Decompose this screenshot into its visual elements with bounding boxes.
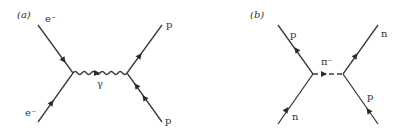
arrow-icon bbox=[321, 71, 327, 77]
arrow-icon bbox=[94, 70, 100, 76]
label-p-top: p bbox=[166, 19, 172, 30]
neutron-line-top-right bbox=[343, 25, 378, 74]
label-e-bottom: e⁻ bbox=[25, 107, 36, 118]
label-p-bottom: p bbox=[165, 115, 171, 126]
label-p-bottom-right: p bbox=[367, 91, 373, 102]
electron-line-top-left bbox=[38, 25, 73, 73]
label-n-bottom-left: n bbox=[292, 111, 299, 122]
feynman-diagrams-figure: (a) e⁻ e⁻ γ p p (b) p n bbox=[0, 0, 402, 136]
electron-line-bottom-left bbox=[38, 73, 73, 122]
label-e-top: e⁻ bbox=[45, 13, 56, 24]
panel-a-label: (a) bbox=[17, 9, 31, 20]
label-n-top-right: n bbox=[381, 28, 388, 39]
proton-line-top-right bbox=[127, 25, 162, 73]
panel-b-label: (b) bbox=[250, 9, 264, 20]
label-p-top-left: p bbox=[290, 29, 296, 40]
label-gamma: γ bbox=[97, 78, 103, 89]
panel-a: (a) e⁻ e⁻ γ p p bbox=[17, 9, 172, 126]
label-pi-minus: π⁻ bbox=[321, 56, 333, 67]
panel-b: (b) p n π⁻ n p bbox=[250, 9, 388, 124]
